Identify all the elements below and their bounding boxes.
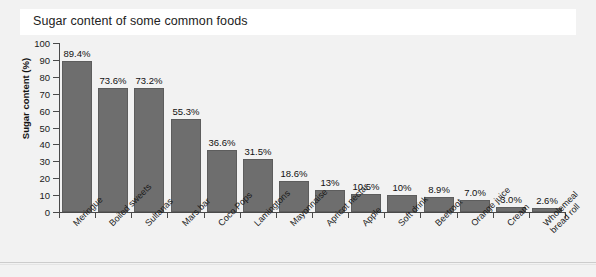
y-axis-tick [53, 60, 59, 61]
x-axis-tick [131, 212, 132, 218]
x-axis-tick [384, 212, 385, 218]
y-axis-tick-label: 30 [4, 156, 50, 167]
y-axis-tick [53, 195, 59, 196]
y-axis-tick [53, 178, 59, 179]
y-axis-tick-label: 90 [4, 54, 50, 65]
y-axis-tick-label: 100 [4, 38, 50, 49]
x-axis-tick [529, 212, 530, 218]
bottom-divider-shadow [0, 264, 596, 265]
x-axis-tick [420, 212, 421, 218]
y-axis-tick [53, 144, 59, 145]
bar-value-label: 55.3% [158, 106, 214, 117]
x-axis-tick [312, 212, 313, 218]
y-axis-tick-label: 10 [4, 190, 50, 201]
y-axis-tick-label: 40 [4, 139, 50, 150]
bar [98, 88, 128, 212]
x-axis-tick [167, 212, 168, 218]
y-axis-tick-label: 20 [4, 173, 50, 184]
y-axis-tick [53, 43, 59, 44]
x-axis-tick [348, 212, 349, 218]
plot-area: Sugar content (%) 0102030405060708090100… [0, 0, 596, 277]
y-axis-tick [53, 77, 59, 78]
chart-figure: Sugar content of some common foods Sugar… [0, 0, 596, 277]
y-axis-tick-label: 80 [4, 71, 50, 82]
y-axis-tick-label: 60 [4, 105, 50, 116]
x-axis-tick [240, 212, 241, 218]
y-axis-tick-label: 0 [4, 207, 50, 218]
y-axis-tick [53, 128, 59, 129]
x-axis-tick [95, 212, 96, 218]
x-axis-tick [204, 212, 205, 218]
x-axis-tick [276, 212, 277, 218]
bar-value-label: 89.4% [49, 48, 105, 59]
y-axis-tick-label: 50 [4, 122, 50, 133]
y-axis-tick [53, 94, 59, 95]
y-axis-tick-label: 70 [4, 88, 50, 99]
x-axis-tick [457, 212, 458, 218]
x-axis-tick [59, 212, 60, 218]
bar [171, 119, 201, 212]
bar-value-label: 31.5% [230, 146, 286, 157]
x-axis-tick [493, 212, 494, 218]
y-axis-tick [53, 111, 59, 112]
bottom-divider [0, 262, 596, 263]
y-axis-line [59, 43, 60, 213]
y-axis-tick [53, 161, 59, 162]
bar-value-label: 73.2% [121, 75, 177, 86]
